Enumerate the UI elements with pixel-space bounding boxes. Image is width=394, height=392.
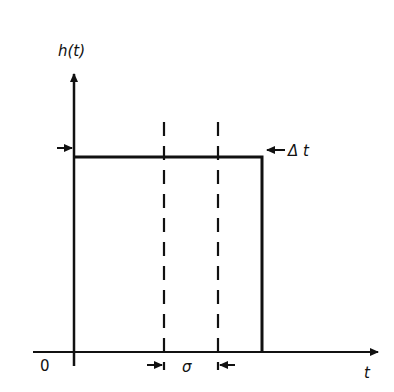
- y-axis-label: h(t): [58, 42, 85, 60]
- x-axis-label: t: [364, 364, 371, 382]
- delta-t-label: Δ t: [287, 142, 310, 160]
- pulse-shape: [74, 157, 262, 352]
- sigma-label: σ: [182, 358, 192, 376]
- origin-label: 0: [40, 357, 50, 375]
- impulse-response-diagram: h(t) t 0 Δ t σ: [0, 0, 394, 392]
